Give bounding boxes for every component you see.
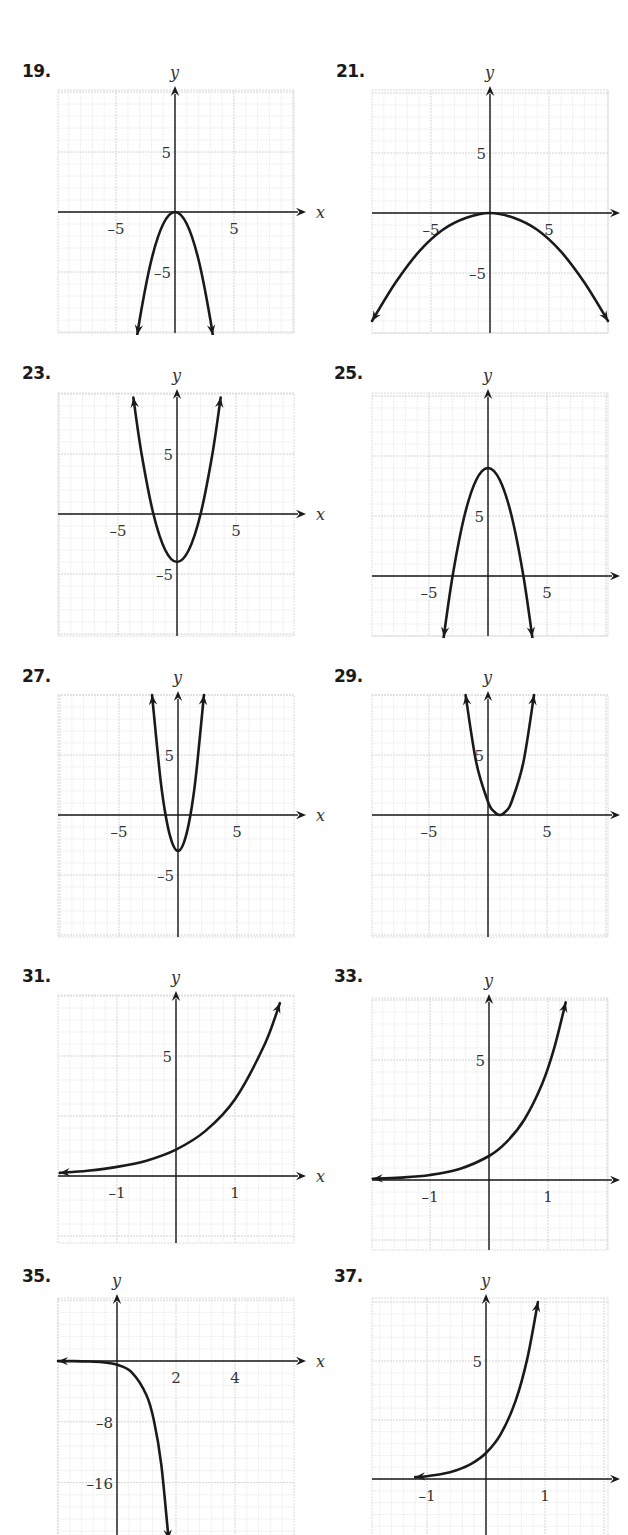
x-tick-label: 1 [543,1188,553,1206]
axes: xy–115 [58,968,325,1243]
graph-27: xy–555–5 [58,668,325,937]
grid [372,998,608,1250]
y-tick-label: –5 [156,566,173,584]
graph-23: xy–555–5 [58,366,325,636]
axes: xy–555–5 [58,63,325,333]
x-tick-label: –5 [109,522,126,540]
y-axis-label: y [483,971,494,990]
y-tick-label: –5 [469,265,486,283]
x-tick-label: –1 [108,1184,125,1202]
axes: xy–555–5 [58,366,325,636]
x-tick-label: 4 [230,1369,240,1387]
x-tick-label: –5 [420,584,437,602]
axes: xy–555 [372,668,628,937]
y-axis-label: y [172,668,183,687]
grid [372,695,608,937]
x-tick-label: –5 [422,221,439,239]
y-tick-label: –16 [86,1475,113,1493]
function-curve [373,1002,566,1178]
x-tick-label: 2 [171,1369,181,1387]
axes: xy–115 [372,971,628,1250]
y-tick-label: 5 [474,508,484,526]
y-tick-label: 5 [475,1052,485,1070]
x-tick-label: 1 [540,1487,550,1505]
grid [58,695,294,937]
grid [372,393,608,636]
x-tick-label: –5 [420,823,437,841]
x-tick-label: 5 [232,823,242,841]
graph-35: xy24–8–16 [58,1271,325,1535]
graph-21: xy–555–5 [372,63,628,333]
graph-25: xy–555 [372,366,628,641]
graph-31: xy–115 [58,968,325,1243]
y-axis-label: y [170,968,181,987]
y-axis-label: y [482,366,493,385]
x-axis-label: x [316,1352,325,1371]
graph-33: xy–115 [372,971,628,1250]
y-tick-label: 5 [472,1353,482,1371]
x-tick-label: –1 [418,1487,435,1505]
graph-29: xy–555 [372,668,628,937]
x-tick-label: –5 [107,220,124,238]
graph-37: xy–115 [372,1271,628,1535]
y-tick-label: –5 [157,867,174,885]
y-axis-label: y [169,63,180,82]
y-tick-label: 5 [161,144,171,162]
x-tick-label: 5 [229,220,239,238]
x-tick-label: –5 [110,823,127,841]
x-tick-label: 5 [231,522,241,540]
y-axis-label: y [480,1271,491,1290]
grid [372,1298,608,1535]
y-axis-label: y [482,668,493,687]
x-tick-label: 5 [542,823,552,841]
curve-group [373,1002,566,1178]
plots-canvas: xy–555–5 xy–555–5 xy–555–5 xy–555 xy–555… [0,0,628,1535]
y-tick-label: 5 [164,747,174,765]
x-axis-label: x [316,505,325,524]
x-axis-label: x [316,1167,325,1186]
y-axis-label: y [171,366,182,385]
y-tick-label: –5 [154,264,171,282]
function-curve [415,1302,538,1477]
x-axis-label: x [316,203,325,222]
axes: xy24–8–16 [58,1271,325,1535]
graph-19: xy–555–5 [58,63,325,376]
x-tick-label: 5 [542,584,552,602]
y-tick-label: 5 [476,145,486,163]
grid [58,1298,294,1535]
x-tick-label: 1 [230,1184,240,1202]
y-tick-label: 5 [163,446,173,464]
y-axis-label: y [111,1271,122,1290]
axes: xy–115 [372,1271,628,1535]
y-axis-label: y [484,63,495,82]
y-tick-label: 5 [162,1048,172,1066]
curve-group [415,1302,538,1477]
x-tick-label: –1 [421,1188,438,1206]
x-axis-label: x [316,806,325,825]
y-tick-label: –8 [96,1414,113,1432]
